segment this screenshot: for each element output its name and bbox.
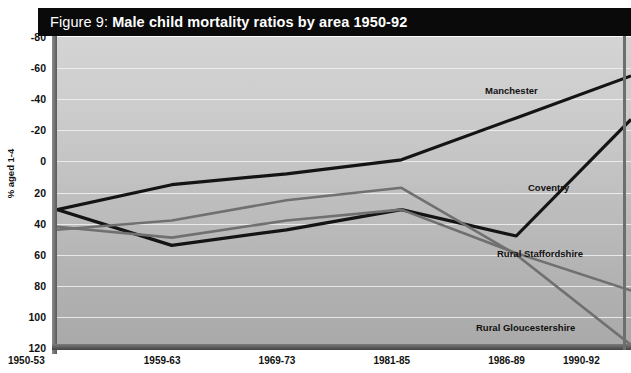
x-tick-label: 1959-63 [144,355,181,366]
y-tick-label: -20 [12,124,46,136]
series-label-rural-staffordshire: Rural Staffordshire [497,248,583,259]
y-axis-line [52,31,57,354]
figure-number: Figure 9: [50,14,108,30]
x-tick-label: 1981-85 [373,355,410,366]
figure-title: Male child mortality ratios by area 1950… [112,14,407,30]
y-tick-label: 20 [12,187,46,199]
series-label-coventry: Coventry [528,182,569,193]
x-tick-label: 1969-73 [259,355,296,366]
x-tick-label: 1990-92 [563,355,600,366]
y-tick-label: 40 [12,218,46,230]
plot-right-border [623,31,626,350]
y-tick-label: 80 [12,280,46,292]
y-tick-label: -60 [12,62,46,74]
series-label-manchester: Manchester [485,85,538,96]
figure-title-bar: Figure 9: Male child mortality ratios by… [38,8,631,36]
y-tick-label: 120 [12,342,46,354]
y-tick-label: -40 [12,93,46,105]
series-label-rural-gloucestershire: Rural Gloucestershire [476,322,575,333]
x-tick-label: 1950-53 [8,355,45,366]
y-tick-label: 100 [12,311,46,323]
y-tick-label: 60 [12,249,46,261]
y-tick-label: 0 [12,155,46,167]
figure-container: Figure 9: Male child mortality ratios by… [0,0,631,373]
x-axis-line [52,344,631,350]
x-tick-label: 1986-89 [488,355,525,366]
